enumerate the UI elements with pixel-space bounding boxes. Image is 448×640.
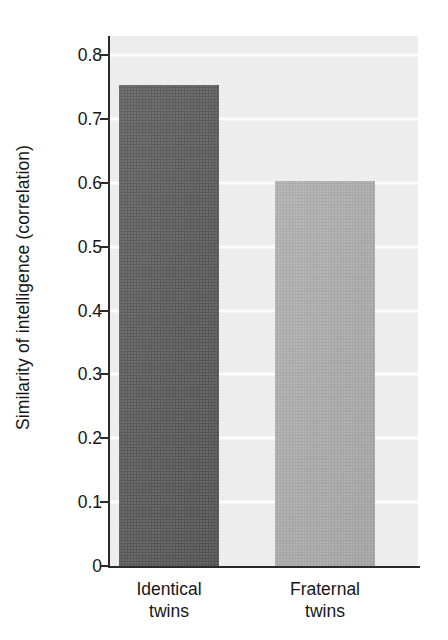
bar-chart-figure: Similarity of intelligence (correlation)… xyxy=(0,0,448,640)
y-axis-tick-label: 0.8 xyxy=(78,45,102,66)
y-axis-tick-labels: 00.10.20.30.40.50.60.70.8 xyxy=(48,0,102,640)
y-axis-tick-label: 0.5 xyxy=(78,236,102,257)
x-axis-category-label: Identical twins xyxy=(89,578,249,623)
y-axis-tick-label: 0.4 xyxy=(78,300,102,321)
y-axis-title: Similarity of intelligence (correlation) xyxy=(14,145,35,430)
y-axis-tick-label: 0.3 xyxy=(78,364,102,385)
plot-area xyxy=(110,36,418,566)
y-axis-title-container: Similarity of intelligence (correlation) xyxy=(0,0,48,575)
bar-identical-twins xyxy=(119,85,219,566)
gridline xyxy=(110,54,418,57)
y-axis-tick-label: 0.7 xyxy=(78,109,102,130)
y-axis-tick-label: 0.1 xyxy=(78,492,102,513)
x-axis-line xyxy=(108,566,420,568)
y-axis-tick-label: 0.2 xyxy=(78,428,102,449)
bar-fraternal-twins xyxy=(275,181,375,566)
caption-fragment xyxy=(18,632,318,640)
y-axis-tick-label: 0.6 xyxy=(78,172,102,193)
x-axis-category-label: Fraternal twins xyxy=(245,578,405,623)
